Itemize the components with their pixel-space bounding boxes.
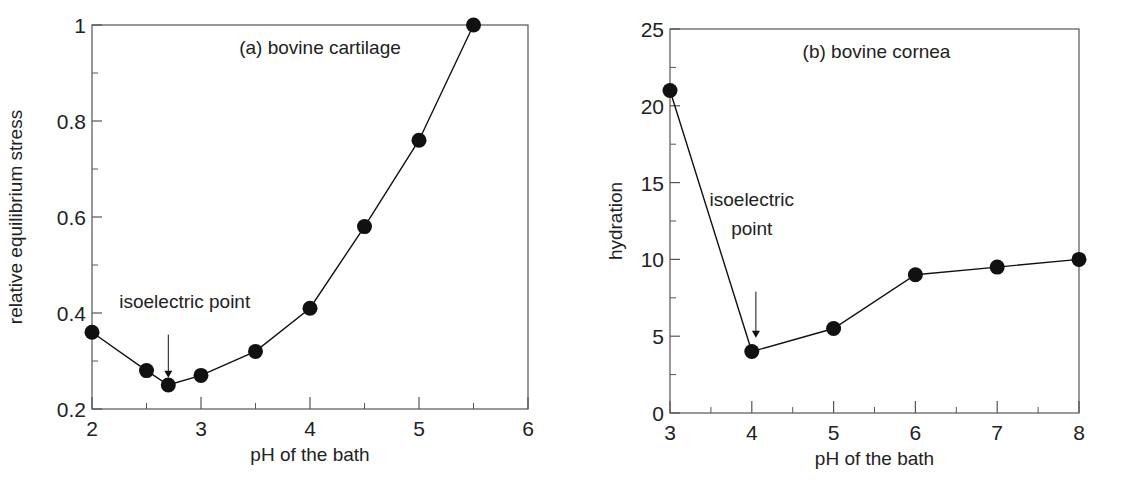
down-arrow-icon [752, 331, 760, 338]
y-tick-label: 0.6 [57, 206, 86, 229]
y-axis-title: hydration [605, 182, 626, 260]
data-point-marker [663, 83, 678, 98]
y-tick-label: 15 [641, 172, 664, 195]
x-tick-label: 8 [1073, 421, 1085, 444]
x-axis-title: pH of the bath [250, 444, 369, 465]
data-line [92, 25, 474, 385]
y-tick-label: 25 [641, 18, 664, 41]
y-tick-label: 0.8 [57, 110, 86, 133]
y-tick-label: 0.4 [57, 302, 87, 325]
x-tick-label: 2 [86, 417, 98, 440]
y-tick-label: 0.2 [57, 398, 86, 421]
x-tick-label: 3 [664, 421, 676, 444]
panel-a-bovine-cartilage: 234560.20.40.60.81pH of the bathrelative… [5, 14, 534, 465]
panel-title: (a) bovine cartilage [239, 37, 401, 58]
panel-title: (b) bovine cornea [803, 41, 951, 62]
data-point-marker [248, 344, 263, 359]
y-tick-label: 5 [652, 325, 664, 348]
data-point-marker [139, 363, 154, 378]
data-point-marker [412, 133, 427, 148]
annotation-label: isoelectric point [119, 291, 251, 312]
y-axis-title: relative equilibrium stress [5, 110, 26, 324]
down-arrow-icon [164, 371, 172, 378]
x-tick-label: 7 [991, 421, 1003, 444]
figure-svg: 234560.20.40.60.81pH of the bathrelative… [0, 0, 1144, 489]
data-point-marker [303, 301, 318, 316]
data-point-marker [990, 260, 1005, 275]
plot-frame [92, 25, 528, 409]
data-point-marker [744, 344, 759, 359]
annotation-label: point [731, 218, 773, 239]
data-point-marker [85, 325, 100, 340]
data-point-marker [1072, 252, 1087, 267]
x-tick-label: 4 [746, 421, 758, 444]
y-tick-label: 1 [74, 14, 86, 37]
data-point-marker [466, 18, 481, 33]
annotation-label: isoelectric [710, 189, 794, 210]
x-tick-label: 3 [195, 417, 207, 440]
data-point-marker [908, 267, 923, 282]
data-point-marker [357, 219, 372, 234]
x-tick-label: 6 [522, 417, 534, 440]
x-axis-title: pH of the bath [815, 448, 934, 469]
figure-canvas: 234560.20.40.60.81pH of the bathrelative… [0, 0, 1144, 489]
x-tick-label: 5 [413, 417, 425, 440]
y-tick-label: 0 [652, 402, 664, 425]
data-point-marker [161, 378, 176, 393]
y-tick-label: 20 [641, 95, 664, 118]
data-point-marker [826, 321, 841, 336]
x-tick-label: 6 [910, 421, 922, 444]
x-tick-label: 5 [828, 421, 840, 444]
panel-b-bovine-cornea: 3456780510152025pH of the bathhydration(… [605, 18, 1087, 469]
data-point-marker [194, 368, 209, 383]
x-tick-label: 4 [304, 417, 316, 440]
y-tick-label: 10 [641, 248, 664, 271]
